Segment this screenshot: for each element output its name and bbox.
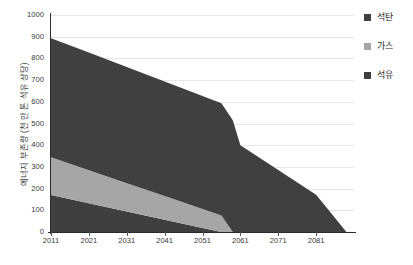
legend-swatch-coal (364, 14, 371, 21)
legend-item-oil[interactable]: 석유 (364, 70, 413, 80)
y-tick-label: 800 (31, 54, 44, 62)
stacked-area-series (51, 15, 354, 232)
x-tick-label: 2041 (156, 236, 173, 246)
x-axis-tick-mark (203, 232, 204, 236)
x-tick-label: 2051 (194, 236, 211, 246)
y-tick-label: 700 (31, 76, 44, 84)
x-axis-tick-mark (51, 232, 52, 236)
legend-swatch-oil (364, 72, 371, 79)
legend-label: 석탄 (377, 12, 393, 22)
x-tick-label: 2021 (80, 236, 97, 246)
y-axis-title: 에너지 부존량 (천 만 톤 석유 상당) (17, 49, 29, 199)
x-axis-tick-mark (316, 232, 317, 236)
y-tick-label: 100 (31, 206, 44, 214)
x-tick-label: 2061 (232, 236, 249, 246)
x-axis-tick-mark (165, 232, 166, 236)
y-tick-label: 400 (31, 141, 44, 149)
legend-item-gas[interactable]: 가스 (364, 41, 413, 51)
x-tick-label: 2031 (118, 236, 135, 246)
x-axis-tick-labels: 20112021203120412051206120712081 (0, 236, 413, 252)
chart-container: 01002003004005006007008009001000 2011202… (0, 0, 413, 265)
legend-label: 가스 (377, 41, 393, 51)
x-tick-label: 2081 (308, 236, 325, 246)
y-tick-label: 0 (40, 228, 44, 236)
y-tick-label: 500 (31, 120, 44, 128)
y-tick-label: 900 (31, 33, 44, 41)
y-tick-label: 600 (31, 98, 44, 106)
legend-item-coal[interactable]: 석탄 (364, 12, 413, 22)
plot-area (51, 15, 354, 232)
y-tick-label: 200 (31, 185, 44, 193)
y-axis-line (50, 13, 51, 234)
x-tick-label: 2011 (43, 236, 59, 246)
legend-label: 석유 (377, 70, 393, 80)
x-axis-tick-mark (278, 232, 279, 236)
y-tick-label: 300 (31, 163, 44, 171)
x-axis-tick-mark (89, 232, 90, 236)
x-tick-label: 2071 (270, 236, 287, 246)
legend-swatch-gas (364, 43, 371, 50)
x-axis-tick-mark (240, 232, 241, 236)
chart-legend: 석탄가스석유 (364, 12, 413, 99)
y-tick-label: 1000 (27, 11, 44, 19)
x-axis-tick-mark (127, 232, 128, 236)
